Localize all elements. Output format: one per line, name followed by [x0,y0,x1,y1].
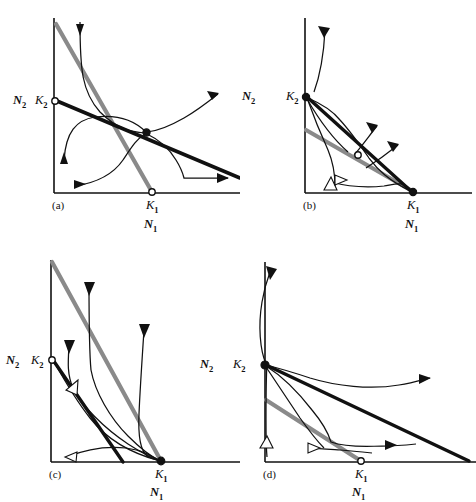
panel-d-x-axis-label: N1 [352,486,365,501]
panel-b-caption: (b) [303,200,316,211]
panel-b-k1-point [409,188,416,195]
panel-b-k2-point [302,93,309,100]
panel-d-y-axis-label: N2 [200,358,213,373]
panel-c-plot [0,250,240,502]
panel-d-trajectory-arrows [260,266,431,453]
panel-d-k1-label: K1 [355,468,368,483]
phase-plane-panel-b: N2 K2 K1 N1 (b) [236,0,476,250]
panel-b-k1-label: K1 [407,199,420,214]
panel-d-k1-point [358,458,364,464]
panel-a-y-axis-label: N2 [13,94,26,109]
panel-c-x-axis-label: N1 [150,486,163,501]
panel-a-caption: (a) [52,200,64,211]
panel-c-k2-label: K2 [31,354,44,369]
panel-d-k2-point [261,361,269,369]
panel-d-caption: (d) [263,469,276,480]
panel-a-k1-point [149,189,155,195]
panel-a-equilibria [52,98,155,195]
panel-c-k1-label: K1 [155,468,168,483]
panel-d-isocline-gray [266,400,361,461]
panel-c-y-axis-label: N2 [6,354,19,369]
panel-b-y-axis-label: N2 [242,90,255,105]
panel-b-isocline-gray [306,130,414,192]
panel-a-x-axis-label: N1 [144,218,157,233]
panel-c-equilibria [49,357,165,465]
phase-plane-panel-d: N2 K2 K1 N1 (d) [236,250,476,502]
phase-plane-panel-c: N2 K2 K1 N1 (c) [0,250,240,502]
panel-a-plot [0,0,240,250]
panel-b-axes [305,18,472,193]
panel-d-plot [236,250,476,502]
panel-c-k2-point [49,357,55,363]
panel-d-k2-label: K2 [233,358,246,373]
panel-b-k2-label: K2 [286,90,299,105]
phase-plane-panel-a: N2 K2 K1 N1 (a) [0,0,240,250]
panel-d-axes [265,262,476,462]
panel-a-isocline-black [57,101,240,178]
panel-b-interior-equilibrium [355,152,361,158]
panel-a-interior-equilibrium [143,129,150,136]
panel-b-x-axis-label: N1 [405,218,418,233]
panel-b-plot [236,0,476,250]
panel-c-caption: (c) [49,469,61,480]
panel-c-k1-point [157,457,165,465]
panel-a-k2-label: K2 [35,94,48,109]
panel-b-trajectory-arrows [318,26,399,190]
panel-a-k2-point [52,98,58,104]
panel-a-k1-label: K1 [146,199,159,214]
